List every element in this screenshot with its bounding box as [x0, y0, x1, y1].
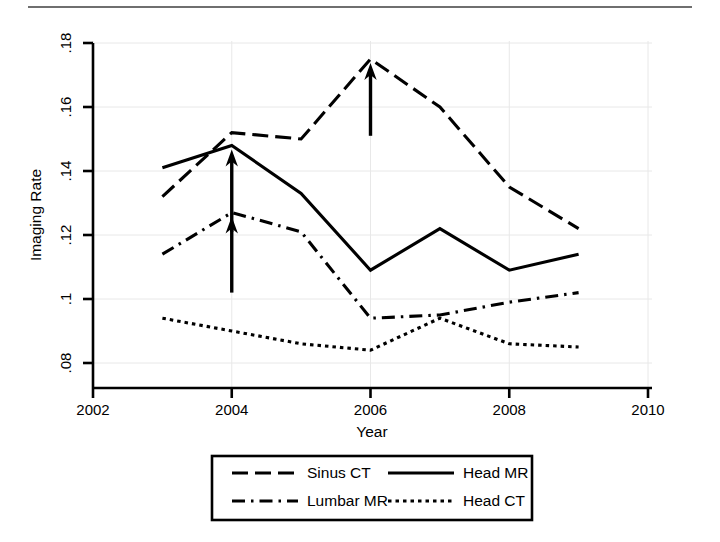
figure-page: .08.1.12.14.16.18 20022004200620082010 I… — [0, 0, 720, 542]
x-tick-label: 2008 — [493, 401, 526, 418]
x-tick-label: 2006 — [354, 401, 387, 418]
legend-label: Lumbar MR — [307, 492, 388, 509]
legend-label: Sinus CT — [307, 464, 371, 481]
y-tick-label: .14 — [57, 161, 74, 182]
x-tick-label: 2002 — [76, 401, 109, 418]
x-tick-label: 2004 — [215, 401, 248, 418]
annotation-arrows-group — [226, 63, 377, 293]
y-tick-label: .1 — [57, 293, 74, 306]
y-tick-label: .12 — [57, 225, 74, 246]
x-axis-tick-marks — [93, 388, 648, 398]
y-axis-tick-marks — [83, 43, 93, 363]
legend-label: Head CT — [463, 492, 526, 509]
legend-label: Head MR — [463, 464, 528, 481]
y-axis-title: Imaging Rate — [27, 169, 44, 261]
y-axis-tick-labels: .08.1.12.14.16.18 — [57, 33, 74, 374]
y-tick-label: .08 — [57, 353, 74, 374]
chart-legend: Sinus CTHead MRLumbar MRHead CT — [212, 456, 532, 520]
x-axis-tick-labels: 20022004200620082010 — [76, 401, 664, 418]
imaging-rate-line-chart: .08.1.12.14.16.18 20022004200620082010 I… — [0, 0, 720, 542]
x-tick-label: 2010 — [631, 401, 664, 418]
annotation-arrow-2006-sinus-ct — [364, 63, 376, 136]
y-tick-label: .16 — [57, 97, 74, 118]
y-tick-label: .18 — [57, 33, 74, 54]
horizontal-gridlines — [93, 43, 652, 363]
annotation-arrow-2004-lumbar-mr — [226, 217, 238, 293]
x-axis-title: Year — [356, 423, 387, 440]
